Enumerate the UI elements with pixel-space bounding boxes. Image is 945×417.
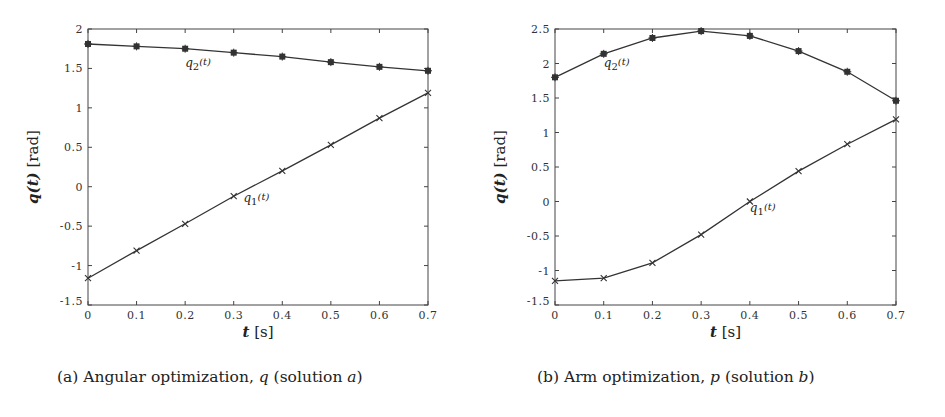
x-tick-label: 0.1 xyxy=(127,309,146,322)
x-tick-label: 0.5 xyxy=(789,309,808,322)
series-label-q1: q1(t) xyxy=(243,191,269,207)
x-tick-label: 0 xyxy=(84,309,92,322)
series-label-q1: q1(t) xyxy=(750,201,776,217)
x-tick-label: 0.2 xyxy=(643,309,662,322)
y-tick-label: -0.5 xyxy=(527,230,550,243)
x-tick-label: 0.7 xyxy=(419,309,438,322)
x-marker-icon xyxy=(231,193,237,199)
caption-text: ) xyxy=(357,368,363,386)
x-tick-label: 0.6 xyxy=(370,309,389,322)
x-marker-icon xyxy=(279,168,285,174)
series-q2t xyxy=(84,40,432,75)
caption-text: (solution xyxy=(720,368,799,386)
y-tick-label: -1 xyxy=(538,265,550,278)
x-tick-label: 0 xyxy=(551,309,559,322)
y-tick-label: 0.5 xyxy=(531,161,550,174)
x-marker-icon xyxy=(376,115,382,121)
caption-solution: a xyxy=(347,368,356,386)
x-tick-label: 0.1 xyxy=(594,309,613,322)
y-tick-label: 1.5 xyxy=(64,62,83,75)
plot-area-frame xyxy=(88,29,428,305)
line-chart-arm-optimization: 00.10.20.30.40.50.60.7-1.5-1-0.500.511.5… xyxy=(470,0,945,360)
y-axis-label: q(t) [rad] xyxy=(491,130,509,204)
caption-variable: q xyxy=(259,368,269,386)
y-axis-label: q(t) [rad] xyxy=(24,130,42,204)
series-line xyxy=(555,119,896,281)
series-label-q2: q2(t) xyxy=(604,56,630,72)
y-tick-label: -0.5 xyxy=(60,220,83,233)
x-tick-label: 0.6 xyxy=(838,309,857,322)
chart-panel-b: 00.10.20.30.40.50.60.7-1.5-1-0.500.511.5… xyxy=(470,0,945,417)
x-tick-label: 0.4 xyxy=(740,309,759,322)
x-tick-label: 0.3 xyxy=(692,309,711,322)
caption-solution: b xyxy=(799,368,809,386)
y-tick-label: -1.5 xyxy=(60,295,83,308)
line-chart-angular-optimization: 00.10.20.30.40.50.60.7-1.5-1-0.500.511.5… xyxy=(0,0,470,360)
figure-caption-a: (a) Angular optimization, q (solution a) xyxy=(57,368,363,386)
x-axis-label: t [s] xyxy=(710,323,741,341)
x-marker-icon xyxy=(134,248,140,254)
y-tick-label: -1.5 xyxy=(527,295,550,308)
series-q1t xyxy=(552,116,899,283)
x-marker-icon xyxy=(796,168,802,174)
series-q1t xyxy=(85,90,431,281)
x-axis-label: t [s] xyxy=(242,323,273,341)
chart-panel-a: 00.10.20.30.40.50.60.7-1.5-1-0.500.511.5… xyxy=(0,0,470,417)
x-marker-icon xyxy=(328,142,334,148)
y-tick-label: 1 xyxy=(76,102,84,115)
x-marker-icon xyxy=(182,221,188,227)
caption-text: ) xyxy=(809,368,815,386)
x-tick-label: 0.5 xyxy=(321,309,340,322)
caption-variable: p xyxy=(710,368,720,386)
y-tick-label: 0 xyxy=(543,196,551,209)
caption-text: (a) Angular optimization, xyxy=(57,368,259,386)
y-tick-label: 2 xyxy=(543,58,551,71)
y-tick-label: -1 xyxy=(71,260,83,273)
x-tick-label: 0.3 xyxy=(224,309,243,322)
y-tick-label: 2 xyxy=(76,23,84,36)
y-tick-label: 1 xyxy=(543,127,551,140)
series-label-q2: q2(t) xyxy=(185,56,211,72)
y-tick-label: 2.5 xyxy=(531,23,550,36)
x-tick-label: 0.2 xyxy=(176,309,195,322)
caption-text: (b) Arm optimization, xyxy=(537,368,710,386)
y-tick-label: 0 xyxy=(76,181,84,194)
x-tick-label: 0.4 xyxy=(273,309,292,322)
x-marker-icon xyxy=(844,141,850,147)
x-tick-label: 0.7 xyxy=(887,309,906,322)
caption-text: (solution xyxy=(269,368,348,386)
y-tick-label: 1.5 xyxy=(531,92,550,105)
x-marker-icon xyxy=(698,232,704,238)
figure-caption-b: (b) Arm optimization, p (solution b) xyxy=(537,368,815,386)
y-tick-label: 0.5 xyxy=(64,141,83,154)
